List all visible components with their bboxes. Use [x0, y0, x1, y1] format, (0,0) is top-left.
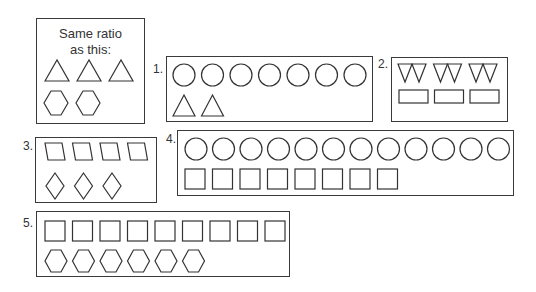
inverted-triangle-icon [412, 64, 426, 82]
problem-4-label: 4. [166, 132, 176, 146]
problem-3-shapes [36, 138, 158, 204]
inverted-triangle-icon [483, 64, 497, 82]
diamond-icon [46, 173, 64, 199]
inverted-triangle-icon [469, 64, 483, 82]
problem-2-shapes [392, 58, 509, 123]
hexagon-icon [183, 250, 205, 272]
problem-2-box [391, 57, 508, 122]
inverted-triangle-icon [398, 64, 412, 82]
inverted-triangle-icon [434, 64, 448, 82]
problem-5-shapes [37, 212, 291, 278]
rectangle-icon [470, 90, 499, 103]
hexagon-icon [100, 250, 122, 272]
square-icon [100, 221, 120, 241]
circle-icon [323, 138, 345, 160]
circle-icon [185, 138, 207, 160]
rectangle-icon [399, 90, 428, 103]
hexagon-icon [155, 250, 177, 272]
circle-icon [287, 64, 309, 86]
circle-icon [230, 64, 252, 86]
square-icon [268, 169, 288, 189]
square-icon [210, 221, 230, 241]
circle-icon [259, 64, 281, 86]
circle-icon [316, 64, 338, 86]
triangle-icon [45, 60, 69, 81]
hexagon-icon [73, 250, 95, 272]
circle-icon [488, 138, 510, 160]
circle-icon [213, 138, 235, 160]
problem-2-label: 2. [378, 57, 388, 71]
circle-icon [433, 138, 455, 160]
square-icon [213, 169, 233, 189]
triangle-icon [173, 95, 195, 116]
rectangle-icon [435, 90, 464, 103]
square-icon [128, 221, 148, 241]
square-icon [238, 221, 258, 241]
hexagon-icon [76, 91, 100, 115]
parallelogram-icon [100, 143, 120, 160]
square-icon [155, 221, 175, 241]
diamond-icon [75, 173, 93, 199]
circle-icon [268, 138, 290, 160]
square-icon [265, 221, 285, 241]
square-icon [240, 169, 260, 189]
circle-icon [378, 138, 400, 160]
circle-icon [240, 138, 262, 160]
inverted-triangle-icon [448, 64, 462, 82]
diamond-icon [103, 173, 121, 199]
circle-icon [173, 64, 195, 86]
square-icon [323, 169, 343, 189]
circle-icon [202, 64, 224, 86]
problem-1-label: 1. [153, 62, 163, 76]
reference-shapes [37, 19, 146, 125]
parallelogram-icon [73, 143, 93, 160]
circle-icon [460, 138, 482, 160]
square-icon [183, 221, 203, 241]
square-icon [45, 221, 65, 241]
problem-3-label: 3. [23, 139, 33, 153]
circle-icon [295, 138, 317, 160]
square-icon [295, 169, 315, 189]
problem-5-label: 5. [23, 216, 33, 230]
problem-4-box [177, 130, 514, 196]
triangle-icon [77, 60, 101, 81]
square-icon [73, 221, 93, 241]
square-icon [350, 169, 370, 189]
hexagon-icon [128, 250, 150, 272]
parallelogram-icon [128, 143, 148, 160]
triangle-icon [109, 60, 133, 81]
problem-5-box [36, 211, 290, 277]
circle-icon [405, 138, 427, 160]
circle-icon [344, 64, 366, 86]
hexagon-icon [45, 250, 67, 272]
circle-icon [350, 138, 372, 160]
problem-1-shapes [167, 57, 374, 123]
problem-3-box [35, 137, 157, 203]
parallelogram-icon [45, 143, 65, 160]
problem-1-box [166, 56, 373, 122]
square-icon [378, 169, 398, 189]
reference-box: Same ratio as this: [36, 18, 145, 124]
triangle-icon [202, 95, 224, 116]
square-icon [185, 169, 205, 189]
problem-4-shapes [178, 131, 515, 197]
hexagon-icon [44, 91, 68, 115]
